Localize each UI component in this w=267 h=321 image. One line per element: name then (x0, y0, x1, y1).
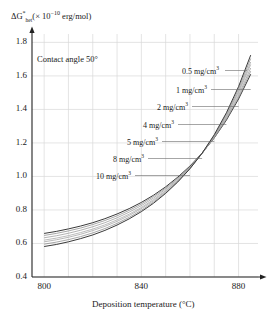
x-tick-880: 880 (222, 281, 256, 291)
series-label-3: 2 mg/cm3 (157, 101, 188, 112)
y-tick-1.0: 1.0 (5, 170, 27, 180)
y-tick-1.8: 1.8 (5, 36, 27, 46)
y-tick-0.6: 0.6 (5, 237, 27, 247)
series-label-2: 1 mg/cm3 (176, 84, 207, 95)
contact-angle-annotation: Contact angle 50° (37, 54, 98, 64)
data-curves (44, 55, 251, 246)
series-label-1: 0.5 mg/cm3 (182, 65, 219, 76)
y-tick-1.2: 1.2 (5, 137, 27, 147)
gridlines (32, 34, 258, 277)
series-label-6: 8 mg/cm3 (113, 153, 144, 164)
series-label-4: 4 mg/cm3 (143, 119, 174, 130)
x-axis-label: Deposition temperature (°C) (92, 299, 195, 309)
y-tick-0.4: 0.4 (5, 271, 27, 281)
series-label-7: 10 mg/cm3 (96, 170, 131, 181)
x-tick-840: 840 (124, 281, 158, 291)
y-tick-1.6: 1.6 (5, 70, 27, 80)
chart-figure: ΔG*het(× 10−10 erg/mol) 0.40.60.81.01.21… (0, 0, 267, 321)
y-tick-1.4: 1.4 (5, 103, 27, 113)
series-label-5: 5 mg/cm3 (127, 136, 158, 147)
x-tick-800: 800 (27, 281, 61, 291)
y-tick-0.8: 0.8 (5, 204, 27, 214)
axis-lines (29, 27, 266, 280)
